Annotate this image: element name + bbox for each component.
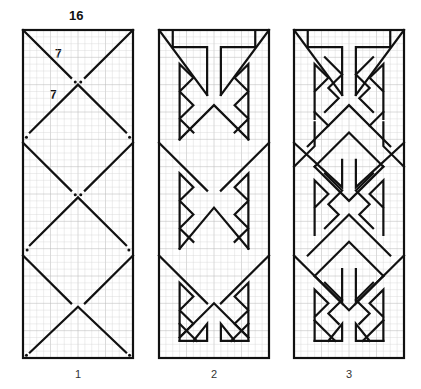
pattern-panel-1 <box>23 30 133 358</box>
panel-caption-3: 3 <box>294 368 404 380</box>
pattern-2-drawing <box>159 30 269 358</box>
pattern-panel-2 <box>159 30 269 358</box>
width-dimension-label: 16 <box>69 8 83 23</box>
pattern-1-drawing <box>23 30 133 358</box>
panel-caption-2: 2 <box>159 368 269 380</box>
pattern-3-drawing <box>294 30 404 358</box>
pattern-panel-3 <box>294 30 404 358</box>
grid-lines <box>23 30 133 358</box>
panel-caption-1: 1 <box>23 368 133 380</box>
